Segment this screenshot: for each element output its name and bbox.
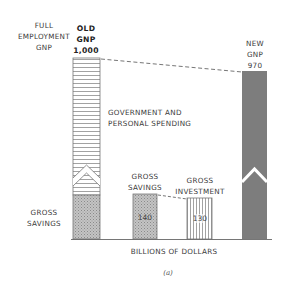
svg-text:GNP: GNP	[247, 50, 264, 59]
svg-text:INVESTMENT: INVESTMENT	[175, 187, 225, 196]
gnp-diagram: FULL EMPLOYMENT GNP OLD GNP 1,000 GROSS …	[0, 0, 287, 294]
old-gnp-savings-segment	[73, 195, 100, 239]
gnp-dashed-connector	[101, 59, 242, 72]
old-gnp-bar	[73, 58, 100, 239]
svg-text:GOVERNMENT AND: GOVERNMENT AND	[108, 108, 182, 117]
svg-text:GROSS: GROSS	[31, 208, 58, 217]
gross-savings-value: 140	[138, 213, 153, 222]
svg-text:GNP: GNP	[76, 35, 95, 44]
gross-savings-bar-label: GROSS SAVINGS	[128, 172, 162, 192]
gross-investment-value: 130	[193, 214, 208, 223]
new-gnp-bar	[242, 71, 267, 239]
full-employment-gnp-label: FULL EMPLOYMENT GNP	[18, 21, 70, 52]
gov-spending-label: GOVERNMENT AND PERSONAL SPENDING	[108, 108, 191, 128]
svg-text:GROSS: GROSS	[132, 172, 159, 181]
svg-text:OLD: OLD	[77, 24, 96, 33]
svg-text:970: 970	[248, 61, 263, 70]
x-axis-label: BILLIONS OF DOLLARS	[131, 247, 218, 256]
svg-text:GROSS: GROSS	[187, 176, 214, 185]
svg-text:EMPLOYMENT: EMPLOYMENT	[18, 32, 70, 41]
svg-text:GNP: GNP	[36, 43, 53, 52]
svg-text:1,000: 1,000	[73, 46, 99, 55]
figure-caption: (a)	[163, 269, 173, 277]
svg-text:FULL: FULL	[35, 21, 54, 30]
gross-investment-bar-label: GROSS INVESTMENT	[175, 176, 225, 196]
new-gnp-label: NEW GNP 970	[246, 39, 264, 70]
svg-text:NEW: NEW	[246, 39, 264, 48]
gross-savings-left-label: GROSS SAVINGS	[27, 208, 61, 228]
svg-text:SAVINGS: SAVINGS	[27, 219, 61, 228]
svg-text:SAVINGS: SAVINGS	[128, 183, 162, 192]
svg-text:PERSONAL SPENDING: PERSONAL SPENDING	[108, 119, 191, 128]
old-gnp-label: OLD GNP 1,000	[73, 24, 99, 55]
